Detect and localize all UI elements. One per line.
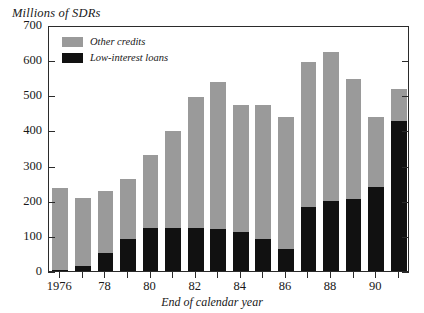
bar-segment-low-interest-loans [210, 229, 226, 271]
bar-1987[interactable] [301, 62, 317, 271]
bar-segment-low-interest-loans [301, 207, 317, 271]
bar-segment-other-credits [210, 82, 226, 229]
legend-item-other-credits: Other credits [62, 35, 192, 48]
legend-swatch-other-credits [62, 37, 83, 47]
bar-1991[interactable] [391, 89, 407, 271]
x-tick-1989 [353, 272, 354, 278]
bar-segment-low-interest-loans [368, 187, 384, 271]
x-tick-1988 [330, 272, 331, 278]
x-tick-label-1990: 90 [369, 279, 382, 294]
x-tick-1985 [262, 272, 263, 278]
x-tick-1987 [307, 272, 308, 278]
bar-segment-low-interest-loans [278, 249, 294, 271]
bar-segment-other-credits [391, 89, 407, 121]
y-tick-right-600 [402, 61, 409, 62]
x-tick-label-1982: 82 [188, 279, 201, 294]
x-tick-1991 [398, 272, 399, 278]
bar-1990[interactable] [368, 117, 384, 271]
bar-segment-low-interest-loans [188, 228, 204, 271]
x-tick-1986 [285, 272, 286, 278]
y-tick-600 [48, 61, 55, 62]
y-tick-right-200 [402, 202, 409, 203]
y-tick-label-700: 700 [23, 18, 42, 33]
legend-item-low-interest-loans: Low-interest loans [62, 51, 192, 64]
y-tick-500 [48, 96, 55, 97]
bar-1983[interactable] [210, 82, 226, 271]
y-tick-label-400: 400 [23, 123, 42, 138]
y-tick-400 [48, 131, 55, 132]
chart-figure: Millions of SDRs 0100200300400500600700 … [0, 0, 424, 313]
bar-1980[interactable] [143, 155, 159, 271]
bar-1985[interactable] [255, 105, 271, 271]
y-tick-700 [48, 26, 55, 27]
x-tick-label-1980: 80 [143, 279, 156, 294]
bar-segment-low-interest-loans [165, 228, 181, 271]
bar-segment-other-credits [165, 131, 181, 228]
bar-segment-other-credits [143, 155, 159, 228]
bar-segment-low-interest-loans [346, 199, 362, 271]
x-tick-1984 [240, 272, 241, 278]
x-tick-1980 [150, 272, 151, 278]
y-tick-300 [48, 167, 55, 168]
legend-label-other-credits: Other credits [90, 36, 145, 47]
y-tick-label-0: 0 [36, 264, 42, 279]
bar-1976[interactable] [52, 188, 68, 271]
bar-segment-other-credits [301, 62, 317, 207]
bar-1986[interactable] [278, 117, 294, 271]
bar-1979[interactable] [120, 179, 136, 271]
x-tick-label-1978: 78 [98, 279, 111, 294]
y-tick-right-100 [402, 237, 409, 238]
y-tick-label-200: 200 [23, 194, 42, 209]
x-tick-label-1976: 1976 [47, 279, 72, 294]
y-tick-0 [48, 272, 55, 273]
bar-1977[interactable] [75, 198, 91, 271]
y-tick-100 [48, 237, 55, 238]
bar-1988[interactable] [323, 52, 339, 271]
bar-segment-low-interest-loans [52, 270, 68, 271]
bar-segment-other-credits [52, 188, 68, 271]
y-tick-200 [48, 202, 55, 203]
bar-segment-other-credits [75, 198, 91, 267]
bar-1981[interactable] [165, 131, 181, 271]
bar-1978[interactable] [98, 191, 114, 271]
bar-segment-other-credits [255, 105, 271, 239]
bar-1982[interactable] [188, 97, 204, 271]
y-tick-label-500: 500 [23, 88, 42, 103]
bar-segment-low-interest-loans [143, 228, 159, 271]
x-tick-1977 [82, 272, 83, 278]
x-tick-1983 [217, 272, 218, 278]
bar-segment-other-credits [368, 117, 384, 186]
bar-segment-low-interest-loans [391, 121, 407, 271]
bar-segment-low-interest-loans [323, 201, 339, 271]
x-tick-1978 [104, 272, 105, 278]
bar-segment-low-interest-loans [75, 266, 91, 271]
y-tick-right-700 [402, 26, 409, 27]
bar-segment-other-credits [323, 52, 339, 201]
y-tick-label-100: 100 [23, 229, 42, 244]
x-tick-label-1984: 84 [234, 279, 247, 294]
x-axis-title: End of calendar year [0, 295, 424, 310]
x-tick-label-1988: 88 [324, 279, 337, 294]
x-tick-1982 [195, 272, 196, 278]
y-tick-label-300: 300 [23, 159, 42, 174]
y-tick-right-500 [402, 96, 409, 97]
y-tick-right-400 [402, 131, 409, 132]
legend-swatch-low-interest-loans [62, 53, 83, 63]
bar-segment-other-credits [98, 191, 114, 253]
chart-legend: Other credits Low-interest loans [62, 35, 192, 67]
bar-segment-low-interest-loans [233, 232, 249, 271]
y-tick-right-0 [402, 272, 409, 273]
y-tick-label-600: 600 [23, 53, 42, 68]
x-tick-1981 [172, 272, 173, 278]
bar-segment-low-interest-loans [98, 253, 114, 271]
x-tick-label-1986: 86 [279, 279, 292, 294]
x-tick-1979 [127, 272, 128, 278]
legend-label-low-interest-loans: Low-interest loans [90, 52, 168, 63]
bar-segment-other-credits [346, 79, 362, 198]
bar-segment-other-credits [120, 179, 136, 239]
bar-1989[interactable] [346, 79, 362, 271]
y-tick-right-300 [402, 167, 409, 168]
bar-segment-low-interest-loans [255, 239, 271, 271]
bar-segment-low-interest-loans [120, 239, 136, 271]
bar-1984[interactable] [233, 105, 249, 271]
